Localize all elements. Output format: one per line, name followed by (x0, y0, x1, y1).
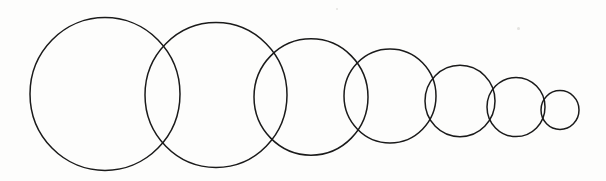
circle-4 (344, 49, 436, 143)
circle-3 (254, 39, 368, 155)
circle-group (30, 18, 579, 171)
circles-figure: Overlapping circles decreasing in size (0, 0, 606, 181)
paper-speckle-2 (336, 8, 338, 10)
circle-2 (145, 23, 287, 168)
paper-speckle-1 (517, 27, 520, 30)
circle-7 (541, 91, 579, 130)
figure-canvas: Overlapping circles decreasing in size (0, 0, 606, 181)
circle-6 (487, 77, 545, 136)
circle-1 (30, 18, 180, 171)
